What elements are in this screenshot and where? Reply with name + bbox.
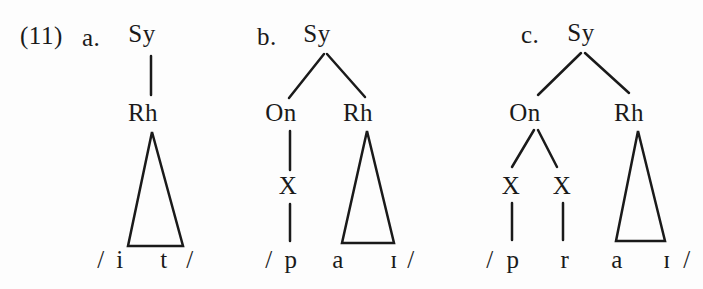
figure-number: (11)	[20, 23, 63, 48]
b-segment: p	[285, 247, 298, 272]
item-label-c: c.	[521, 22, 539, 47]
c-node-on: On	[509, 100, 541, 125]
c-node-sy: Sy	[567, 20, 594, 45]
b-node-rh: Rh	[343, 100, 373, 125]
tree-edges-layer	[0, 0, 703, 289]
c-edge-on-x1	[512, 130, 534, 167]
a-open-slash: /	[97, 247, 104, 272]
b-edge-sy-on	[289, 54, 324, 98]
c-close-slash: /	[683, 247, 690, 272]
c-open-slash: /	[486, 247, 493, 272]
a-node-rh: Rh	[128, 100, 158, 125]
item-label-a: a.	[82, 25, 100, 50]
syllable-structure-figure: (11) a. Sy Rh / i t / b. Sy On Rh X / p …	[0, 0, 703, 289]
b-close-slash: /	[407, 247, 414, 272]
c-segment: a	[611, 247, 623, 272]
a-segment: t	[160, 247, 167, 272]
b-segment: a	[332, 247, 344, 272]
c-node-rh: Rh	[614, 100, 644, 125]
b-segment: ɪ	[390, 247, 397, 272]
item-label-b: b.	[257, 24, 277, 49]
c-segment: ɪ	[663, 247, 670, 272]
a-close-slash: /	[186, 247, 193, 272]
b-open-slash: /	[265, 247, 272, 272]
b-edge-sy-rh	[327, 54, 365, 97]
b-node-on: On	[265, 100, 297, 125]
c-node-x2: X	[553, 173, 572, 198]
b-node-x: X	[279, 173, 298, 198]
c-node-x1: X	[502, 173, 521, 198]
a-segment: i	[116, 247, 123, 272]
c-segment: r	[561, 247, 570, 272]
c-edge-on-x2	[538, 130, 557, 167]
c-edge-sy-rh	[585, 53, 629, 93]
c-segment: p	[507, 247, 520, 272]
b-node-sy: Sy	[303, 21, 330, 46]
a-node-sy: Sy	[128, 21, 155, 46]
c-edge-sy-on	[538, 53, 581, 95]
b-rhyme-triangle	[342, 131, 394, 243]
a-rhyme-triangle	[128, 132, 183, 246]
c-rhyme-triangle	[616, 131, 665, 241]
